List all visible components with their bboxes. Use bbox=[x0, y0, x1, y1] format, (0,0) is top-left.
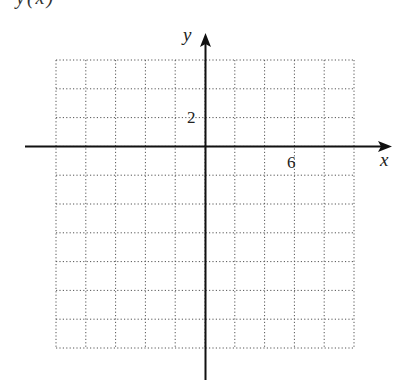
y-axis bbox=[200, 33, 211, 380]
coordinate-grid: y x 6 2 bbox=[0, 0, 406, 385]
x-axis bbox=[25, 141, 392, 152]
y-tick-label: 2 bbox=[187, 108, 196, 127]
x-axis-label: x bbox=[379, 149, 389, 170]
y-axis-label: y bbox=[181, 24, 192, 45]
x-tick-label: 6 bbox=[287, 153, 296, 172]
